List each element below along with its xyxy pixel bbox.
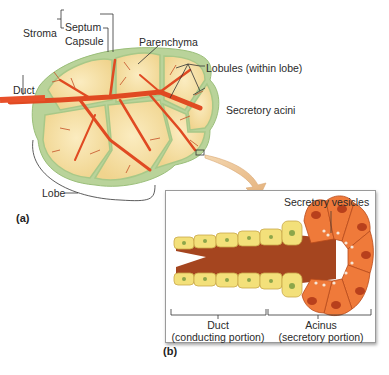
panel-b-label: (b) (163, 345, 177, 357)
label-septum: Septum (65, 21, 101, 33)
label-duct: Duct (13, 84, 35, 96)
acinus-inset-panel: Secretory vesicles Duct (conducting port… (165, 190, 376, 343)
label-duct-title: Duct (168, 319, 268, 331)
label-lobe: Lobe (42, 187, 65, 199)
label-acinus-portion: Acinus (secretory portion) (269, 319, 373, 343)
label-parenchyma: Parenchyma (139, 36, 198, 48)
label-acinus-title: Acinus (269, 319, 373, 331)
label-stroma: Stroma (23, 27, 57, 39)
label-capsule: Capsule (65, 35, 104, 47)
label-duct-portion: Duct (conducting portion) (168, 319, 268, 343)
label-secretory-vesicles: Secretory vesicles (284, 196, 369, 208)
label-lobules: Lobules (within lobe) (206, 62, 302, 74)
label-secretory-acini: Secretory acini (226, 104, 295, 116)
label-duct-sub: (conducting portion) (168, 331, 268, 343)
label-acinus-sub: (secretory portion) (269, 331, 373, 343)
panel-a-label: (a) (16, 212, 29, 224)
